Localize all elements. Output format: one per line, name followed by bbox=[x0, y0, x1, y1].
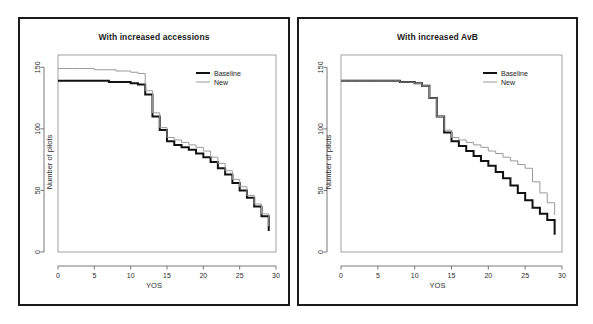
x-tick-label: 10 bbox=[411, 272, 419, 279]
x-tick-label: 0 bbox=[56, 272, 60, 279]
x-tick-label: 15 bbox=[163, 272, 171, 279]
y-tick-label: 0 bbox=[34, 250, 41, 254]
legend-label-new: New bbox=[214, 79, 229, 86]
x-tick-label: 25 bbox=[521, 272, 529, 279]
x-tick-label: 25 bbox=[236, 272, 244, 279]
series-line-new bbox=[341, 81, 555, 215]
series-line-new bbox=[58, 69, 269, 227]
legend-label-baseline: Baseline bbox=[214, 70, 241, 77]
x-axis-label-right: YOS bbox=[299, 281, 576, 290]
figure-root: With increased accessions 05101520253005… bbox=[0, 0, 593, 324]
x-tick-label: 10 bbox=[127, 272, 135, 279]
series-line-baseline bbox=[58, 81, 269, 231]
x-tick-label: 20 bbox=[484, 272, 492, 279]
y-tick-label: 50 bbox=[317, 186, 324, 194]
x-tick-label: 5 bbox=[92, 272, 96, 279]
y-axis-label-right: Number of pilots bbox=[324, 134, 333, 189]
plot-box bbox=[341, 55, 562, 252]
x-tick-label: 30 bbox=[272, 272, 280, 279]
plot-box bbox=[58, 55, 276, 252]
plot-area-left: 051015202530050100150BaselineNew bbox=[20, 19, 288, 304]
plot-area-right: 051015202530050100150BaselineNew bbox=[299, 19, 576, 304]
chart-panel-left: With increased accessions 05101520253005… bbox=[18, 17, 290, 306]
y-tick-label: 100 bbox=[34, 123, 41, 135]
legend-label-new: New bbox=[501, 79, 516, 86]
y-tick-label: 0 bbox=[317, 250, 324, 254]
x-tick-label: 20 bbox=[199, 272, 207, 279]
series-line-baseline bbox=[341, 81, 555, 235]
y-tick-label: 150 bbox=[317, 61, 324, 73]
x-tick-label: 0 bbox=[339, 272, 343, 279]
legend-label-baseline: Baseline bbox=[501, 70, 528, 77]
x-tick-label: 15 bbox=[448, 272, 456, 279]
y-tick-label: 50 bbox=[34, 186, 41, 194]
chart-panel-right: With increased AvB 051015202530050100150… bbox=[297, 17, 578, 306]
x-axis-label-left: YOS bbox=[20, 281, 288, 290]
x-tick-label: 30 bbox=[558, 272, 566, 279]
y-axis-label-left: Number of pilots bbox=[45, 134, 54, 189]
y-tick-label: 150 bbox=[34, 61, 41, 73]
x-tick-label: 5 bbox=[376, 272, 380, 279]
y-tick-label: 100 bbox=[317, 123, 324, 135]
